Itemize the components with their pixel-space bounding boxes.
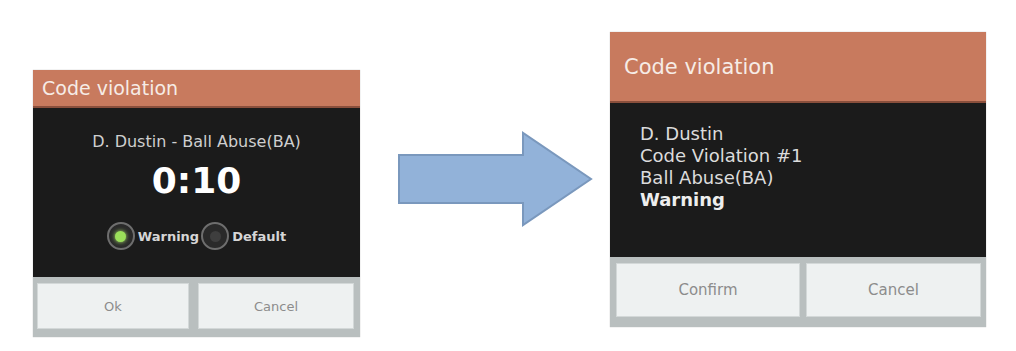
player-name: D. Dustin xyxy=(640,123,803,145)
dialog-body: D. Dustin Code Violation #1 Ball Abuse(B… xyxy=(610,103,986,257)
violation-summary: D. Dustin - Ball Abuse(BA) xyxy=(33,132,360,151)
countdown-timer: 0:10 xyxy=(33,160,360,201)
radio-warning[interactable]: Warning xyxy=(107,222,199,250)
dialog-button-bar: Confirm Cancel xyxy=(610,257,986,327)
cancel-button[interactable]: Cancel xyxy=(806,263,981,317)
ok-button[interactable]: Ok xyxy=(37,283,189,329)
confirm-button[interactable]: Confirm xyxy=(616,263,800,317)
radio-label: Default xyxy=(232,229,286,244)
violation-number: Code Violation #1 xyxy=(640,145,803,167)
penalty-label: Warning xyxy=(640,189,803,211)
dialog-body: D. Dustin - Ball Abuse(BA) 0:10 Warning … xyxy=(33,108,360,277)
cancel-button[interactable]: Cancel xyxy=(198,283,354,329)
radio-unselected-icon xyxy=(201,222,229,250)
violation-details: D. Dustin Code Violation #1 Ball Abuse(B… xyxy=(640,123,803,211)
dialog-title: Code violation xyxy=(610,32,986,103)
violation-type: Ball Abuse(BA) xyxy=(640,167,803,189)
radio-default[interactable]: Default xyxy=(201,222,286,250)
radio-label: Warning xyxy=(138,229,199,244)
dialog-button-bar: Ok Cancel xyxy=(33,277,360,337)
code-violation-dialog-after: Code violation D. Dustin Code Violation … xyxy=(610,32,986,327)
penalty-radio-group: Warning Default xyxy=(33,222,360,250)
dialog-title: Code violation xyxy=(33,70,360,108)
radio-selected-icon xyxy=(107,222,135,250)
code-violation-dialog-before: Code violation D. Dustin - Ball Abuse(BA… xyxy=(33,70,360,337)
right-arrow-icon xyxy=(397,131,593,227)
